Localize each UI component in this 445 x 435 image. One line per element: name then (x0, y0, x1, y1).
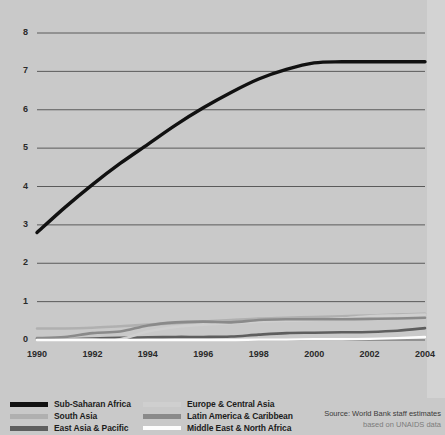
x-axis-tick-label: 2000 (294, 349, 334, 359)
legend-swatch (143, 426, 181, 430)
source-note: Source: World Bank staff estimates based… (271, 408, 441, 430)
x-axis-tick-label: 1996 (183, 349, 223, 359)
legend-item[interactable]: Sub-Saharan Africa (10, 398, 131, 410)
legend-column-1: Sub-Saharan AfricaSouth AsiaEast Asia & … (10, 398, 131, 434)
y-axis-tick-label: 8 (6, 27, 28, 37)
legend-item[interactable]: East Asia & Pacific (10, 422, 131, 434)
line-chart-svg (0, 0, 445, 398)
source-line-1: Source: World Bank staff estimates (271, 408, 441, 419)
series-line (37, 62, 425, 233)
y-axis-tick-label: 4 (6, 181, 28, 191)
y-axis-tick-label: 0 (6, 334, 28, 344)
x-axis-tick-label: 1994 (128, 349, 168, 359)
legend-swatch (143, 414, 181, 419)
y-axis-tick-label: 7 (6, 65, 28, 75)
gridlines (37, 33, 425, 340)
y-axis-tick-label: 5 (6, 142, 28, 152)
legend-item[interactable]: South Asia (10, 410, 131, 422)
y-axis-tick-label: 1 (6, 296, 28, 306)
y-axis-tick-label: 3 (6, 219, 28, 229)
x-axis-tick-label: 1998 (239, 349, 279, 359)
legend-label: South Asia (54, 411, 97, 421)
legend-label: Europe & Central Asia (187, 399, 274, 409)
legend-swatch (143, 402, 181, 407)
x-axis-tick-label: 1990 (17, 349, 57, 359)
x-axis-tick-label: 2004 (405, 349, 445, 359)
y-axis-tick-label: 6 (6, 104, 28, 114)
y-axis-tick-label: 2 (6, 257, 28, 267)
series-lines (37, 62, 425, 340)
legend-label: East Asia & Pacific (54, 423, 128, 433)
legend-swatch (10, 426, 48, 431)
x-axis-tick-label: 2002 (350, 349, 390, 359)
legend-swatch (10, 402, 48, 407)
legend-swatch (10, 414, 48, 419)
x-axis-tick-label: 1992 (72, 349, 112, 359)
legend-label: Sub-Saharan Africa (54, 399, 131, 409)
chart-figure: 012345678 199019921994199619982000200220… (0, 0, 445, 435)
plot-area: 012345678 199019921994199619982000200220… (0, 0, 445, 398)
source-line-2: based on UNAIDS data (271, 419, 441, 430)
